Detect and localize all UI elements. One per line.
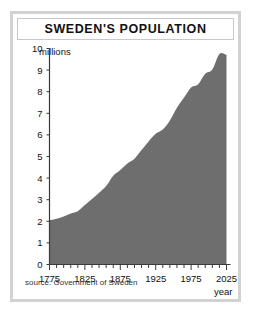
y-axis-tick-label: 0 xyxy=(37,259,42,270)
y-axis-tick-label: 1 xyxy=(37,237,42,248)
y-axis-tick-label: 4 xyxy=(37,173,42,184)
x-axis-tick-label: 2025 xyxy=(216,273,237,284)
chart-title-box: SWEDEN'S POPULATION xyxy=(17,18,234,40)
chart-figure: SWEDEN'S POPULATION millions 01234567891… xyxy=(10,11,241,302)
y-axis-tick-labels: 012345678910 xyxy=(32,43,43,270)
page-title: SWEDEN'S POPULATION xyxy=(44,22,206,36)
series-area-population xyxy=(50,53,227,264)
source-note: source: Government of Sweden xyxy=(25,278,138,287)
x-axis-tick-label: 1925 xyxy=(145,273,166,284)
y-axis-tick-label: 7 xyxy=(37,108,42,119)
y-axis-tick-label: 5 xyxy=(37,151,42,162)
x-axis-ticks xyxy=(50,265,227,271)
area-chart-svg: 012345678910 177518251875192519752025 ye… xyxy=(13,40,238,299)
y-axis-tick-label: 9 xyxy=(37,65,42,76)
x-axis-tick-label: 1975 xyxy=(181,273,202,284)
y-axis-tick-label: 8 xyxy=(37,86,42,97)
y-axis-tick-label: 10 xyxy=(32,43,43,54)
y-axis-tick-label: 2 xyxy=(37,216,42,227)
plot-area: millions 012345678910 177518251875192519… xyxy=(13,40,238,299)
y-axis-tick-label: 3 xyxy=(37,194,42,205)
x-axis-label: year xyxy=(214,286,232,297)
y-axis-tick-label: 6 xyxy=(37,129,42,140)
